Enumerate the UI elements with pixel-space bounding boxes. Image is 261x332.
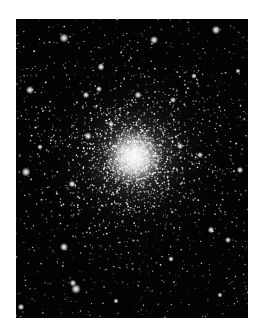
starfield-canvas — [16, 19, 248, 318]
page: Photograph of a dense globular star clus… — [0, 0, 261, 332]
globular-cluster-photo — [16, 19, 248, 318]
